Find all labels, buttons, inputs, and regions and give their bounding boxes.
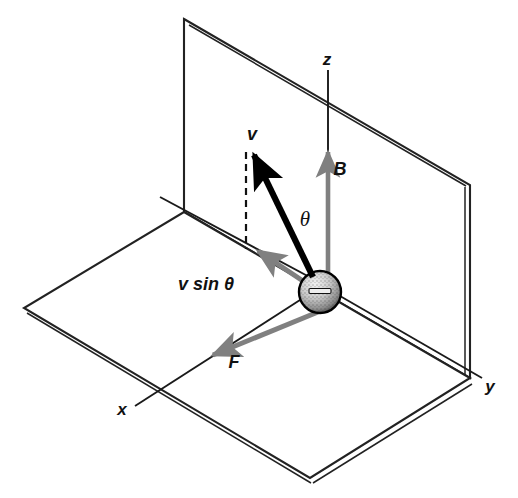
- y-axis-label: y: [484, 377, 496, 396]
- physics-diagram: z y x v B F v sin θ θ: [0, 0, 518, 498]
- negative-charge-particle: [299, 271, 341, 313]
- velocity-label: v: [247, 124, 258, 144]
- theta-angle-label: θ: [300, 207, 310, 231]
- x-axis-label: x: [116, 400, 128, 419]
- diagram-canvas: z y x v B F v sin θ θ: [0, 0, 518, 498]
- magnetic-field-label: B: [334, 159, 347, 179]
- particle-charge-sign: [309, 289, 331, 294]
- velocity-perpendicular-label: v sin θ: [178, 274, 234, 294]
- force-label: F: [229, 352, 241, 372]
- z-axis-label: z: [322, 50, 332, 69]
